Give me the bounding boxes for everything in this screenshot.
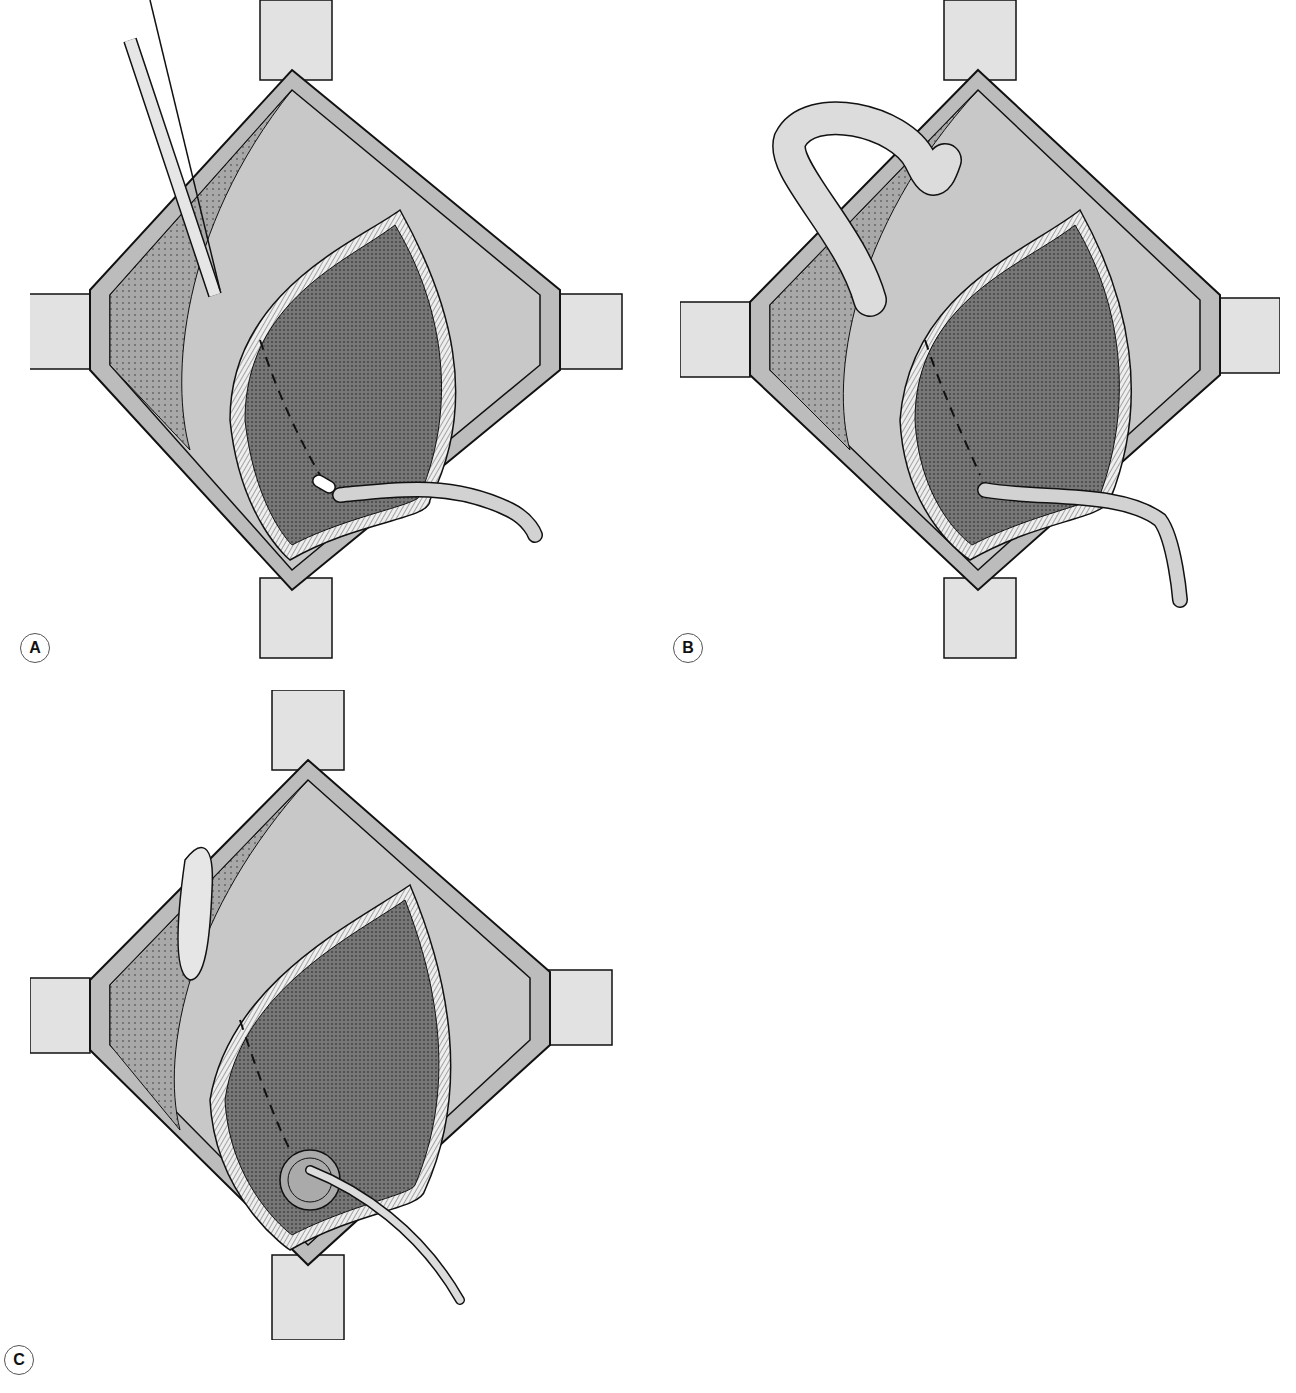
retractor-left xyxy=(30,294,92,369)
panel-a xyxy=(30,0,630,660)
surgical-illustration-a xyxy=(30,0,630,660)
retractor-bottom xyxy=(260,578,332,658)
panel-b xyxy=(680,0,1280,660)
panel-c xyxy=(30,690,630,1340)
panel-label-c: C xyxy=(4,1345,34,1375)
panel-label-a: A xyxy=(20,633,50,663)
surgical-illustration-c xyxy=(30,690,630,1340)
surgical-illustration-b xyxy=(680,0,1280,660)
panel-label-b: B xyxy=(673,633,703,663)
retractor-top xyxy=(260,0,332,80)
figure-caption xyxy=(0,1386,1296,1393)
